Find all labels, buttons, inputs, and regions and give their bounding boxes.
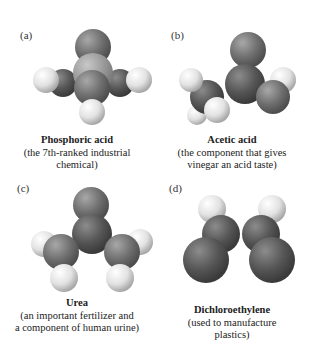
molecule-description: chemical) <box>0 159 154 172</box>
molecule-name: Dichloroethylene <box>155 304 309 317</box>
phosphoric-acid-molecule <box>0 0 154 130</box>
molecule-description: plastics) <box>155 329 309 342</box>
caption: Dichloroethylene (used to manufacture pl… <box>155 304 309 342</box>
molecule-description: (an important fertilizer and <box>0 310 154 323</box>
panel-dichloroethylene: (d) Dichloroethylene (used to manufactur… <box>155 180 309 357</box>
caption: Urea (an important fertilizer and a comp… <box>0 297 154 335</box>
panel-urea: (c) Urea (an important fertilizer and a … <box>0 180 154 357</box>
panel-acetic-acid: (b) Acetic acid (the component that give… <box>155 0 309 178</box>
molecule-name: Phosphoric acid <box>0 134 154 147</box>
molecule-name: Acetic acid <box>155 134 309 147</box>
molecule-description: (used to manufacture <box>155 317 309 330</box>
urea-molecule <box>0 180 154 310</box>
caption: Phosphoric acid (the 7th-ranked industri… <box>0 134 154 172</box>
caption: Acetic acid (the component that gives vi… <box>155 134 309 172</box>
acetic-acid-molecule <box>155 0 309 130</box>
dichloroethylene-molecule <box>155 180 309 310</box>
molecule-description: a component of human urine) <box>0 322 154 335</box>
molecule-description: vinegar an acid taste) <box>155 159 309 172</box>
molecule-description: (the 7th-ranked industrial <box>0 147 154 160</box>
molecule-name: Urea <box>0 297 154 310</box>
panel-phosphoric-acid: (a) Phosphoric acid (the 7th-ranked indu… <box>0 0 154 178</box>
molecule-description: (the component that gives <box>155 147 309 160</box>
